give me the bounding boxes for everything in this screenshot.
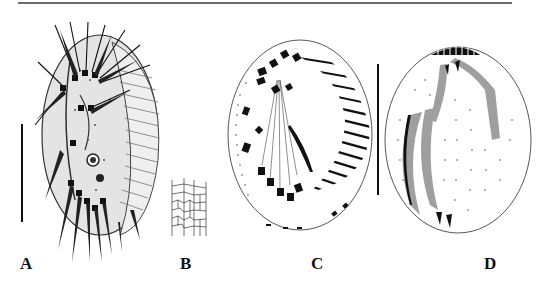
- panel-b-drawing: [171, 178, 211, 236]
- scale-bar-cd: [377, 64, 379, 195]
- panel-label-d: D: [484, 254, 496, 274]
- panel-c-drawing: [228, 35, 400, 230]
- panel-a-drawing: [35, 22, 159, 262]
- scale-bar-a: [21, 124, 23, 222]
- panel-label-b: B: [180, 254, 191, 274]
- panel-label-a: A: [20, 254, 32, 274]
- figure-drawings: [0, 0, 546, 284]
- panel-label-c: C: [311, 254, 323, 274]
- panel-d-drawing: [385, 46, 531, 233]
